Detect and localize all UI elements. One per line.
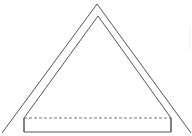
inner-triangle	[24, 16, 171, 118]
base-block	[24, 118, 171, 132]
outer-right-edge	[97, 4, 191, 133]
a-frame-diagram	[0, 0, 192, 136]
inner-left-edge	[24, 16, 98, 118]
outer-triangle	[2, 4, 191, 133]
outer-left-edge	[2, 4, 97, 133]
inner-right-edge	[98, 16, 171, 118]
